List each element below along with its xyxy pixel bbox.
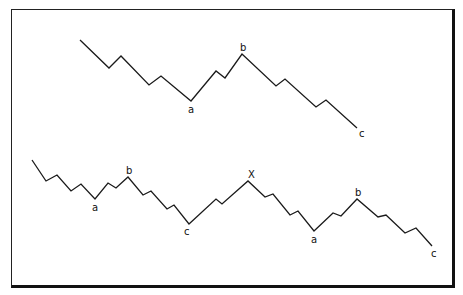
wave-label: a: [188, 104, 194, 115]
wave-label: b: [355, 187, 361, 198]
wave-diagram: abcabcXabc: [0, 0, 463, 295]
wave-label: X: [248, 169, 255, 180]
wave-label: b: [126, 165, 132, 176]
wave-label: c: [184, 226, 190, 237]
wave-label: a: [92, 202, 98, 213]
wave-label: a: [311, 234, 317, 245]
wave-label: b: [240, 42, 246, 53]
wave-label: c: [359, 128, 365, 139]
wave-line-zigzag-abc: [80, 40, 357, 128]
wave-label: c: [431, 248, 437, 259]
